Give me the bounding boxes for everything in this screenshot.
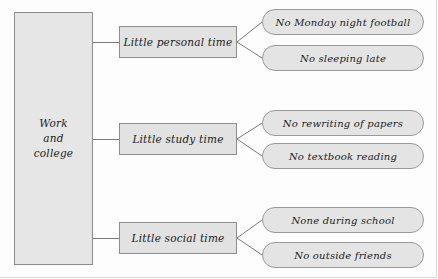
leaf-label: No textbook reading bbox=[289, 151, 397, 162]
edge-mid-1-to-leaf-2 bbox=[237, 123, 262, 139]
branch-label: Little study time bbox=[132, 133, 223, 145]
leaf-label: No rewriting of papers bbox=[283, 118, 403, 129]
leaf-node-no-monday-night-football: No Monday night football bbox=[262, 9, 424, 35]
leaf-label: No outside friends bbox=[294, 250, 391, 261]
leaf-node-none-during-school: None during school bbox=[262, 207, 424, 233]
root-label-line-1: Work bbox=[34, 116, 73, 131]
edge-mid-0-to-leaf-0 bbox=[237, 22, 262, 42]
branch-label: Little personal time bbox=[124, 36, 233, 48]
root-label-line-3: college bbox=[34, 146, 73, 161]
diagram-canvas: Work and college Little personal time Li… bbox=[0, 0, 438, 279]
leaf-node-no-rewriting-of-papers: No rewriting of papers bbox=[262, 110, 424, 136]
branch-node-little-study-time: Little study time bbox=[119, 123, 237, 155]
edge-mid-2-to-leaf-5 bbox=[237, 238, 262, 255]
leaf-node-no-textbook-reading: No textbook reading bbox=[262, 143, 424, 169]
leaf-label: No Monday night football bbox=[276, 17, 411, 28]
leaf-node-no-outside-friends: No outside friends bbox=[262, 242, 424, 268]
branch-node-little-personal-time: Little personal time bbox=[119, 26, 237, 58]
root-node: Work and college bbox=[14, 12, 93, 265]
edge-mid-0-to-leaf-1 bbox=[237, 42, 262, 58]
leaf-label: No sleeping late bbox=[300, 53, 386, 64]
edge-mid-1-to-leaf-3 bbox=[237, 139, 262, 156]
leaf-node-no-sleeping-late: No sleeping late bbox=[262, 45, 424, 71]
branch-node-little-social-time: Little social time bbox=[119, 222, 237, 254]
edge-mid-2-to-leaf-4 bbox=[237, 220, 262, 238]
branch-label: Little social time bbox=[132, 232, 225, 244]
root-label-line-2: and bbox=[34, 131, 73, 146]
leaf-label: None during school bbox=[291, 215, 394, 226]
